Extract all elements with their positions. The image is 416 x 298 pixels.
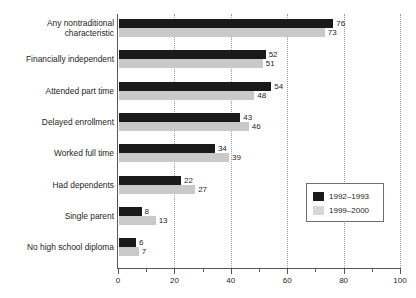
x-tick-0 [118,269,119,274]
bar-value-1-5: 27 [198,185,207,194]
x-tick-label-0: 0 [116,276,120,285]
bar-value-1-7: 7 [142,247,146,256]
y-axis-line [117,14,118,268]
bar-0-0 [119,19,333,28]
bar-0-7 [119,238,136,247]
horizontal-bar-chart: 76735251544843463439222781367 0204060801… [0,0,416,298]
bar-0-4 [119,144,215,153]
legend-label-1: 1999–2000 [329,206,369,215]
category-label-line: Attended part time [0,86,114,96]
category-label-3: Delayed enrollment [0,117,114,127]
bar-value-1-6: 13 [159,216,168,225]
bar-value-0-5: 22 [184,176,193,185]
category-label-1: Financially independent [0,54,114,64]
bar-value-0-2: 54 [274,82,283,91]
bar-0-1 [119,50,266,59]
category-label-line: Delayed enrollment [0,117,114,127]
legend-swatch-icon-0 [313,192,324,201]
x-tick-label-40: 40 [226,276,235,285]
bar-value-0-1: 52 [269,50,278,59]
bar-value-1-3: 46 [252,122,261,131]
bar-value-0-3: 43 [243,113,252,122]
category-label-line: Had dependents [0,180,114,190]
bar-value-0-6: 8 [145,207,149,216]
legend-item-1: 1999–2000 [313,205,369,216]
bar-1-4 [119,153,229,162]
bar-value-0-0: 76 [336,19,345,28]
x-tick-minor-30 [203,269,204,272]
bar-1-2 [119,91,254,100]
bar-value-0-4: 34 [218,144,227,153]
category-label-line: Worked full time [0,148,114,158]
legend: 1992–1993 1999–2000 [306,183,384,222]
bar-1-3 [119,122,249,131]
category-label-line: No high school diploma [0,242,114,252]
bar-0-5 [119,176,181,185]
bar-value-1-0: 73 [328,28,337,37]
x-tick-60 [287,269,288,274]
gridline-100 [400,14,401,268]
bar-value-1-2: 48 [257,91,266,100]
bar-1-7 [119,247,139,256]
x-tick-minor-70 [315,269,316,272]
bar-1-5 [119,185,195,194]
bar-1-1 [119,59,263,68]
category-label-5: Had dependents [0,180,114,190]
category-label-line: Single parent [0,211,114,221]
legend-swatch-icon-1 [313,206,324,215]
bar-value-1-1: 51 [266,59,275,68]
category-label-2: Attended part time [0,86,114,96]
bar-1-0 [119,28,325,37]
bar-0-2 [119,82,271,91]
bar-0-3 [119,113,240,122]
x-tick-minor-90 [372,269,373,272]
x-tick-label-60: 60 [283,276,292,285]
bar-value-1-4: 39 [232,153,241,162]
x-tick-label-100: 100 [393,276,406,285]
x-tick-label-80: 80 [339,276,348,285]
legend-item-0: 1992–1993 [313,191,369,202]
x-tick-minor-10 [146,269,147,272]
x-tick-label-20: 20 [170,276,179,285]
x-tick-100 [400,269,401,274]
gridline-60 [287,14,288,268]
gridline-80 [344,14,345,268]
legend-label-0: 1992–1993 [329,192,369,201]
bar-1-6 [119,216,156,225]
category-label-4: Worked full time [0,148,114,158]
x-tick-20 [174,269,175,274]
category-label-line: characteristic [0,28,114,38]
category-label-6: Single parent [0,211,114,221]
x-tick-40 [231,269,232,274]
bar-0-6 [119,207,142,216]
plot-area: 76735251544843463439222781367 [118,14,400,268]
bar-value-0-7: 6 [139,238,143,247]
category-label-7: No high school diploma [0,242,114,252]
x-tick-80 [344,269,345,274]
category-label-0: Any nontraditionalcharacteristic [0,18,114,38]
category-label-line: Financially independent [0,54,114,64]
category-label-line: Any nontraditional [0,18,114,28]
x-tick-minor-50 [259,269,260,272]
